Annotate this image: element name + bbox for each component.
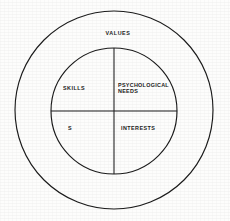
quadrant-label-skills: SKILLS — [63, 85, 103, 91]
diagram-canvas: VALUES SKILLS PSYCHOLOGICAL NEEDS S INTE… — [0, 0, 230, 221]
quadrant-label-lower-left: S — [68, 125, 88, 131]
quadrant-label-psychological-needs: PSYCHOLOGICAL NEEDS — [118, 82, 174, 95]
quadrant-label-interests: INTERESTS — [121, 125, 165, 131]
outer-ring-label-values: VALUES — [96, 30, 140, 36]
